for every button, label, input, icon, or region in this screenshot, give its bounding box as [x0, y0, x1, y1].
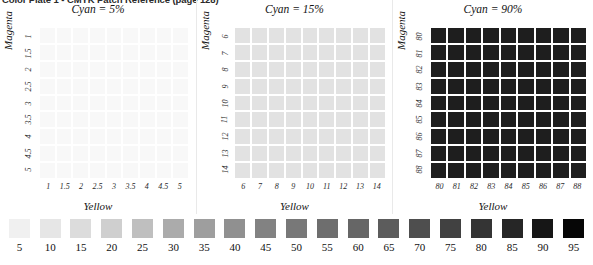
wedge-step: 60: [343, 219, 374, 254]
patch-cell: [73, 79, 88, 94]
wedge-swatch: [101, 219, 122, 238]
x-tick-label: 82: [465, 180, 482, 194]
y-tick-label: 11: [217, 111, 233, 128]
patch-cell: [173, 79, 188, 94]
y-tick-label: 82: [411, 61, 427, 78]
x-tick-label: 1: [40, 180, 56, 194]
patch-cell: [107, 79, 122, 94]
wedge-swatch: [194, 219, 215, 238]
x-tick-label: 1.5: [56, 180, 72, 194]
patch-cell: [269, 112, 284, 127]
wedge-label: 75: [445, 241, 456, 254]
patch-cell: [501, 163, 516, 178]
patch-cell: [336, 163, 351, 178]
wedge-step: 10: [35, 219, 66, 254]
wedge-step: 15: [66, 219, 97, 254]
patch-cell: [123, 62, 138, 77]
patch-cell: [553, 45, 568, 60]
patch-cell: [518, 28, 533, 43]
patch-cell: [370, 96, 385, 111]
wedge-label: 65: [383, 241, 394, 254]
y-tick-column: 808182838485868788: [411, 28, 427, 178]
patch-cell: [553, 96, 568, 111]
wedge-label: 55: [322, 241, 333, 254]
x-tick-label: 6: [235, 180, 252, 194]
patch-cell: [73, 112, 88, 127]
patch-cell: [107, 129, 122, 144]
patch-cell: [319, 28, 334, 43]
patch-cell: [140, 62, 155, 77]
patch-cell: [536, 163, 551, 178]
patch-cell: [286, 146, 301, 161]
x-tick-label: 81: [448, 180, 465, 194]
patch-cell: [90, 129, 105, 144]
patch-cell: [518, 112, 533, 127]
patch-cell: [353, 45, 368, 60]
y-tick-label: 83: [411, 78, 427, 95]
patch-cell: [431, 129, 446, 144]
patch-cell: [269, 79, 284, 94]
patch-cell: [303, 146, 318, 161]
patch-cell: [571, 28, 586, 43]
wedge-step: 25: [127, 219, 158, 254]
patch-cell: [286, 28, 301, 43]
patch-cell: [90, 163, 105, 178]
wedge-swatch: [286, 219, 307, 238]
y-tick-label: 80: [411, 28, 427, 45]
patch-panel-cyan-90: Cyan = 90% Magenta 808182838485868788 80…: [392, 0, 593, 214]
y-axis-title: Magenta: [2, 11, 14, 50]
patch-cell: [252, 96, 267, 111]
patch-cell: [353, 112, 368, 127]
patch-cell: [157, 28, 172, 43]
patch-cell: [571, 96, 586, 111]
patch-cell: [448, 163, 463, 178]
patch-cell: [448, 96, 463, 111]
y-tick-label: 12: [217, 128, 233, 145]
patch-cell: [448, 146, 463, 161]
patch-cell: [353, 163, 368, 178]
patch-cell: [40, 62, 55, 77]
patch-cell: [173, 163, 188, 178]
patch-cell: [235, 163, 250, 178]
patch-cell: [303, 129, 318, 144]
patch-cell: [319, 112, 334, 127]
patch-cell: [466, 112, 481, 127]
y-tick-column: 67891011121314: [217, 28, 233, 178]
x-tick-label: 87: [552, 180, 569, 194]
patch-cell: [370, 62, 385, 77]
patch-cell: [466, 163, 481, 178]
patch-cell: [536, 96, 551, 111]
patch-cell: [431, 112, 446, 127]
patch-cell: [319, 129, 334, 144]
patch-cell: [448, 112, 463, 127]
panel-title: Cyan = 90%: [393, 3, 593, 15]
patch-cell: [466, 79, 481, 94]
x-tick-row: 808182838485868788: [431, 180, 586, 194]
patch-cell: [353, 96, 368, 111]
patch-cell: [73, 62, 88, 77]
patch-cell: [252, 62, 267, 77]
panel-title: Cyan = 5%: [0, 3, 196, 15]
patch-cell: [553, 146, 568, 161]
patch-cell: [483, 112, 498, 127]
patch-cell: [536, 79, 551, 94]
x-tick-label: 7: [252, 180, 269, 194]
patch-cell: [370, 112, 385, 127]
patch-cell: [269, 62, 284, 77]
x-axis-title: Yellow: [197, 200, 392, 212]
wedge-step: 80: [466, 219, 497, 254]
patch-cell: [353, 62, 368, 77]
wedge-swatch: [9, 219, 30, 238]
wedge-step: 35: [189, 219, 220, 254]
patch-cell: [40, 79, 55, 94]
patch-cell: [140, 28, 155, 43]
patch-cell: [303, 45, 318, 60]
patch-cell: [536, 112, 551, 127]
x-tick-label: 86: [534, 180, 551, 194]
patch-grid: [40, 28, 188, 178]
patch-cell: [235, 129, 250, 144]
patch-cell: [303, 28, 318, 43]
patch-cell: [157, 96, 172, 111]
patch-cell: [252, 146, 267, 161]
patch-cell: [536, 45, 551, 60]
